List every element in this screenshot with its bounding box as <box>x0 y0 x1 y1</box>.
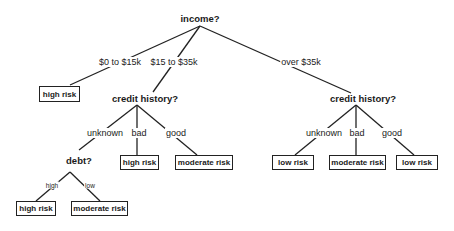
leaf-credit-left-good-moderate-risk: moderate risk <box>175 155 233 170</box>
node-credit-history-left: credit history? <box>112 93 178 104</box>
leaf-debt-low-moderate-risk: moderate risk <box>71 201 128 216</box>
node-income: income? <box>180 13 219 24</box>
edge-label-over-35k: over $35k <box>280 57 322 67</box>
leaf-income-low-high-risk: high risk <box>39 86 80 102</box>
edge-income-0-15k <box>70 26 200 85</box>
edge-label-credit-left-bad: bad <box>130 128 147 138</box>
edge-label-debt-high: high <box>45 182 59 189</box>
edge-income-over-35k <box>200 26 351 93</box>
edge-label-credit-left-unknown: unknown <box>86 128 124 138</box>
leaf-credit-left-bad-high-risk: high risk <box>120 155 159 170</box>
node-debt: debt? <box>66 155 92 166</box>
node-credit-history-right: credit history? <box>330 93 396 104</box>
edge-label-debt-low: low <box>84 182 96 189</box>
leaf-credit-right-unknown-low-risk: low risk <box>272 155 314 170</box>
leaf-credit-right-good-low-risk: low risk <box>396 155 438 170</box>
edge-label-credit-right-good: good <box>381 128 403 138</box>
leaf-debt-high-high-risk: high risk <box>16 201 56 216</box>
edge-label-credit-left-good: good <box>165 128 187 138</box>
tree-edges <box>0 0 454 231</box>
leaf-credit-right-bad-moderate-risk: moderate risk <box>329 155 386 170</box>
edge-label-credit-right-unknown: unknown <box>305 128 343 138</box>
edge-label-credit-right-bad: bad <box>348 128 365 138</box>
edge-label-15-35k: $15 to $35k <box>149 57 198 67</box>
edge-label-0-15k: $0 to $15k <box>98 57 142 67</box>
